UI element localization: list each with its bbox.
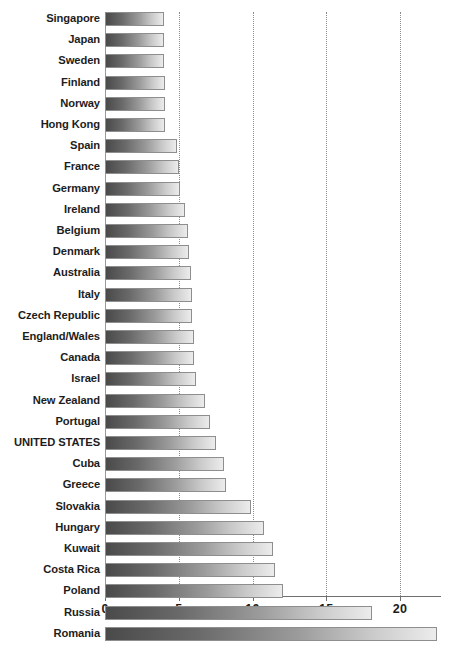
- category-label: UNITED STATES: [5, 436, 100, 448]
- chart-row: Australia: [0, 266, 458, 287]
- category-label: Norway: [5, 97, 100, 109]
- category-label: England/Wales: [5, 330, 100, 342]
- chart-row: New Zealand: [0, 394, 458, 415]
- bar: [105, 54, 164, 68]
- category-label: Romania: [5, 627, 100, 639]
- category-label: Finland: [5, 76, 100, 88]
- bar: [105, 563, 275, 577]
- chart-row: Sweden: [0, 54, 458, 75]
- chart-row: UNITED STATES: [0, 436, 458, 457]
- chart-row: Poland: [0, 584, 458, 605]
- bar: [105, 500, 251, 514]
- chart-row: Czech Republic: [0, 309, 458, 330]
- chart-row: Portugal: [0, 415, 458, 436]
- category-label: Costa Rica: [5, 563, 100, 575]
- bar: [105, 12, 164, 26]
- bar: [105, 309, 192, 323]
- bar: [105, 33, 164, 47]
- chart-row: Japan: [0, 33, 458, 54]
- chart-row: Cuba: [0, 457, 458, 478]
- bar: [105, 203, 185, 217]
- chart-row: Romania: [0, 627, 458, 645]
- chart-row: Norway: [0, 97, 458, 118]
- chart-row: France: [0, 160, 458, 181]
- category-label: Canada: [5, 351, 100, 363]
- chart-row: Hungary: [0, 521, 458, 542]
- bar: [105, 372, 196, 386]
- category-label: Italy: [5, 288, 100, 300]
- chart-row: Russia: [0, 606, 458, 627]
- bar: [105, 457, 224, 471]
- bar: [105, 394, 205, 408]
- bar: [105, 118, 165, 132]
- category-label: Belgium: [5, 224, 100, 236]
- bar: [105, 182, 180, 196]
- bar: [105, 224, 188, 238]
- category-label: Spain: [5, 139, 100, 151]
- chart-row: Singapore: [0, 12, 458, 33]
- chart-row: Germany: [0, 182, 458, 203]
- chart-row: Greece: [0, 478, 458, 499]
- bar: [105, 330, 194, 344]
- category-label: Poland: [5, 584, 100, 596]
- category-label: Japan: [5, 33, 100, 45]
- category-label: France: [5, 160, 100, 172]
- category-label: Portugal: [5, 415, 100, 427]
- category-label: Australia: [5, 266, 100, 278]
- category-label: Germany: [5, 182, 100, 194]
- chart-row: Ireland: [0, 203, 458, 224]
- category-label: Denmark: [5, 245, 100, 257]
- bar: [105, 97, 165, 111]
- bar: [105, 542, 273, 556]
- category-label: Cuba: [5, 457, 100, 469]
- category-label: Singapore: [5, 12, 100, 24]
- bar: [105, 415, 210, 429]
- category-label: Greece: [5, 478, 100, 490]
- category-label: Ireland: [5, 203, 100, 215]
- chart-row: Kuwait: [0, 542, 458, 563]
- chart-row: Denmark: [0, 245, 458, 266]
- bar: [105, 160, 179, 174]
- bar: [105, 288, 192, 302]
- bar: [105, 351, 194, 365]
- chart-row: Slovakia: [0, 500, 458, 521]
- bar: [105, 584, 283, 598]
- bar: [105, 245, 189, 259]
- bar: [105, 266, 191, 280]
- chart-row: Hong Kong: [0, 118, 458, 139]
- category-label: Israel: [5, 372, 100, 384]
- chart-row: Canada: [0, 351, 458, 372]
- category-label: Sweden: [5, 54, 100, 66]
- bar: [105, 478, 226, 492]
- chart-row: Spain: [0, 139, 458, 160]
- chart-row: Israel: [0, 372, 458, 393]
- category-label: Slovakia: [5, 500, 100, 512]
- category-label: Hong Kong: [5, 118, 100, 130]
- bar: [105, 521, 264, 535]
- chart-row: Belgium: [0, 224, 458, 245]
- bar: [105, 627, 437, 641]
- bar: [105, 606, 372, 620]
- category-label: Kuwait: [5, 542, 100, 554]
- bar: [105, 76, 165, 90]
- category-label: New Zealand: [5, 394, 100, 406]
- category-label: Russia: [5, 606, 100, 618]
- chart-row: England/Wales: [0, 330, 458, 351]
- category-label: Hungary: [5, 521, 100, 533]
- category-label: Czech Republic: [5, 309, 100, 321]
- chart-row: Costa Rica: [0, 563, 458, 584]
- chart-row: Italy: [0, 288, 458, 309]
- chart-row: Finland: [0, 76, 458, 97]
- bar: [105, 436, 216, 450]
- bar: [105, 139, 177, 153]
